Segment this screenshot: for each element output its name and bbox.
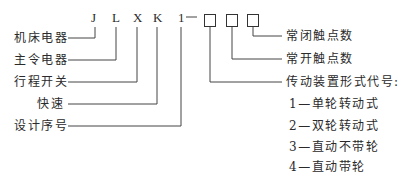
label-drive-type-code: 传动装置形式代号: [286,75,400,89]
placeholder-box-nc-contacts [247,14,259,27]
label-design-serial: 设计序号 [14,119,68,133]
code-letter-k: K [153,11,162,25]
placeholder-box-no-contacts [226,14,238,27]
code-digit-1: 1 [178,11,185,25]
placeholder-box-drive-type [204,14,216,27]
drive-option-1: 1—单轮转动式 [289,97,379,111]
code-letter-l: L [112,11,120,25]
drive-option-4: 4—直动带轮 [289,160,366,172]
code-letter-j: J [91,11,96,25]
label-machine-tool-electrical: 机床电器 [14,31,68,45]
label-nc-contacts: 常闭触点数 [286,29,354,43]
label-quick: 快速 [37,97,64,111]
label-travel-switch: 行程开关 [14,75,68,89]
drive-option-3: 3—直动不带轮 [289,140,379,154]
label-no-contacts: 常开触点数 [286,52,354,66]
code-letter-x: X [133,11,142,25]
drive-option-2: 2—双轮转动式 [289,119,379,133]
label-master-control-electrical: 主令电器 [14,53,68,67]
